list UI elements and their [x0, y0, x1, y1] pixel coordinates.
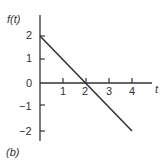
x-axis-label: t: [155, 84, 158, 95]
x-tick-label-3: 3: [106, 86, 112, 97]
y-tick-label-neg1: −1: [19, 101, 32, 112]
y-axis-label: f(t): [7, 14, 20, 25]
panel-label: (b): [6, 147, 19, 158]
x-tick-label-1: 1: [60, 86, 66, 97]
y-tick-label-1: 1: [26, 53, 32, 64]
x-ticks: [63, 78, 132, 83]
x-tick-label-4: 4: [129, 86, 135, 97]
y-tick-label-0: 0: [26, 78, 32, 89]
y-tick-label-neg2: −2: [19, 126, 32, 137]
y-tick-label-2: 2: [26, 30, 32, 41]
x-tick-label-2: 2: [82, 86, 88, 97]
